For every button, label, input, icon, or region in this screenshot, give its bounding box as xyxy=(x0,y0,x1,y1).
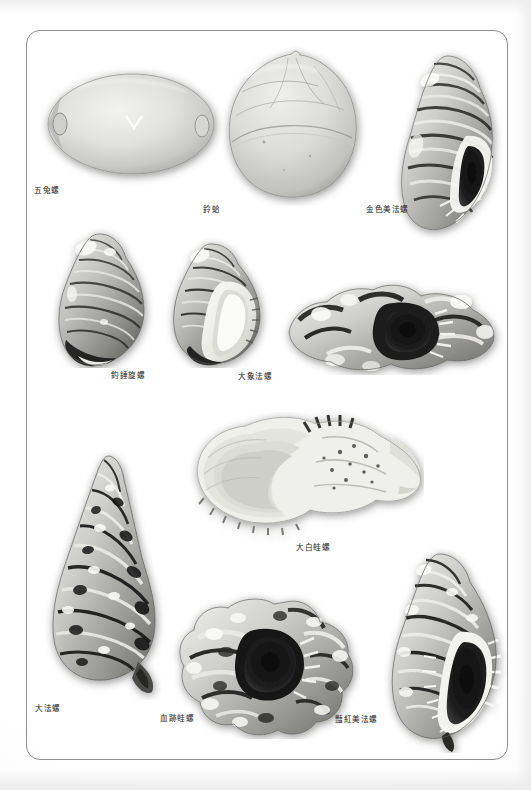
caption-specimen-1: 五兔螺 xyxy=(34,184,60,195)
caption-specimen-5: 大象法螺 xyxy=(238,370,272,381)
caption-specimen-4: 釣錘旋螺 xyxy=(111,369,145,380)
specimen-image-globular-bivalve xyxy=(218,46,368,206)
caption-specimen-8: 血跡蛙螺 xyxy=(160,712,194,723)
caption-specimen-7: 大法螺 xyxy=(35,702,61,713)
specimen-image-trumpet-triton xyxy=(38,450,178,700)
specimen-image-frog-shell xyxy=(174,412,424,547)
specimen-image-ribbed-whelk xyxy=(44,228,159,368)
page-edge-shadow-bottom xyxy=(0,768,531,790)
caption-specimen-3: 金色美法螺 xyxy=(366,203,409,214)
scanned-page: 五兔螺 鈴蛤 xyxy=(0,0,531,790)
caption-specimen-9: 豔紅美法螺 xyxy=(335,713,378,724)
specimen-image-ribbed-triton xyxy=(392,50,507,240)
specimen-image-cowrie xyxy=(36,58,226,188)
caption-specimen-6: 大白蛙螺 xyxy=(296,541,330,552)
specimen-image-nodulose-frog-shell xyxy=(170,594,360,739)
caption-specimen-2: 鈴蛤 xyxy=(203,203,220,214)
page-edge-shadow-right xyxy=(515,0,531,790)
page-edge-shadow-top xyxy=(0,0,531,14)
specimen-image-banded-triton xyxy=(378,548,508,753)
specimen-image-whelk-aperture-view xyxy=(160,238,275,368)
specimen-image-knobbed-triton xyxy=(275,280,505,375)
